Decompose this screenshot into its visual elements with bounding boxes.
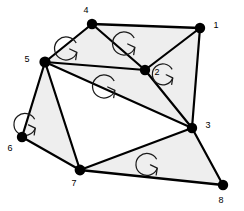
graph-node-3 [187,123,197,133]
node-label-3: 3 [205,120,210,130]
graph-canvas: 12345678 [0,0,244,211]
node-label-1: 1 [213,20,218,30]
graph-node-5 [39,56,50,67]
node-label-6: 6 [7,143,12,153]
graph-node-4 [87,19,97,29]
planar-graph-figure: 12345678 [0,0,244,211]
node-label-2: 2 [154,67,159,77]
graph-node-6 [17,132,27,142]
node-label-5: 5 [24,54,29,64]
graph-node-1 [195,23,205,33]
graph-node-2 [140,65,150,75]
graph-node-7 [75,165,86,176]
graph-node-8 [218,180,228,190]
node-label-7: 7 [71,178,76,188]
node-label-4: 4 [83,5,88,15]
node-label-8: 8 [218,195,223,205]
